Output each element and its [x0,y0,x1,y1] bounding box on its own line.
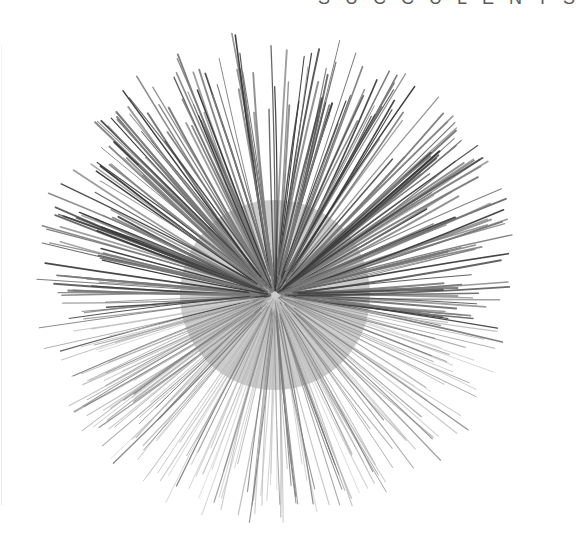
leaf [296,314,440,460]
leaf-burst [37,34,512,523]
